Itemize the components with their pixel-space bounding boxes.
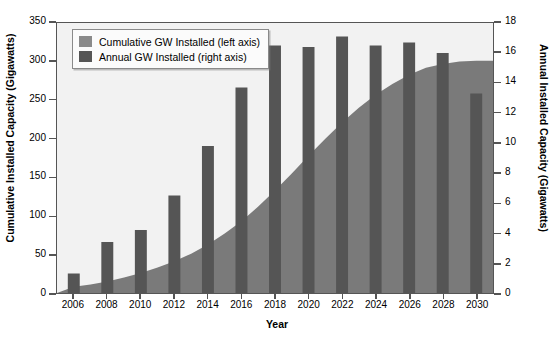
- x-axis-tick-mark: [443, 294, 445, 299]
- y-axis-left-tick-mark: [49, 138, 56, 140]
- legend-swatch-cumulative: [79, 36, 92, 47]
- y-axis-right-tick-label: 0: [505, 287, 535, 298]
- y-axis-left-tick-mark: [49, 60, 56, 62]
- y-axis-right-tick-label: 8: [505, 166, 535, 177]
- y-axis-right-tick-mark: [494, 263, 501, 265]
- y-axis-right-tick-mark: [494, 172, 501, 174]
- x-axis-tick-mark: [241, 294, 243, 299]
- bar: [135, 230, 147, 293]
- y-axis-right-tick-mark: [494, 112, 501, 114]
- y-axis-right-tick-mark: [494, 233, 501, 235]
- y-axis-left-tick-mark: [49, 99, 56, 101]
- legend-swatch-annual: [79, 51, 92, 62]
- y-axis-left-tick-label: 250: [12, 93, 46, 104]
- x-axis-tick-mark: [375, 294, 377, 299]
- x-axis-tick-mark: [342, 294, 344, 299]
- bar: [370, 46, 382, 293]
- x-axis-tick-mark: [274, 294, 276, 299]
- y-axis-left-tick-label: 350: [12, 15, 46, 26]
- bar: [336, 37, 348, 294]
- y-axis-right-tick-label: 16: [505, 45, 535, 56]
- y-axis-left-tick-mark: [49, 254, 56, 256]
- x-axis-tick-mark: [173, 294, 175, 299]
- y-axis-right-tick-label: 6: [505, 196, 535, 207]
- y-axis-right-tick-mark: [494, 142, 501, 144]
- x-axis-tick-mark: [106, 294, 108, 299]
- y-axis-left-tick-label: 100: [12, 209, 46, 220]
- bar: [68, 274, 80, 293]
- legend-label-cumulative: Cumulative GW Installed (left axis): [99, 36, 260, 48]
- bar: [269, 46, 281, 293]
- bar: [403, 42, 415, 293]
- y-axis-right-tick-mark: [494, 51, 501, 53]
- y-axis-left-tick-label: 50: [12, 248, 46, 259]
- x-axis-tick-mark: [72, 294, 74, 299]
- y-axis-left-tick-label: 300: [12, 54, 46, 65]
- y-axis-right-tick-label: 10: [505, 136, 535, 147]
- chart-container: Cumulative Installed Capacity (Gigawatts…: [0, 0, 554, 344]
- y-axis-right-tick-mark: [494, 203, 501, 205]
- x-axis-tick-mark: [139, 294, 141, 299]
- y-axis-right-tick-label: 4: [505, 227, 535, 238]
- y-axis-right-title: Annual Installed Capacity (Gigawatts): [538, 23, 550, 253]
- y-axis-left-tick-label: 150: [12, 170, 46, 181]
- chart-legend: Cumulative GW Installed (left axis) Annu…: [72, 29, 269, 69]
- y-axis-right-tick-label: 14: [505, 75, 535, 86]
- bar: [101, 242, 113, 293]
- legend-label-annual: Annual GW Installed (right axis): [99, 51, 247, 63]
- y-axis-left-tick-mark: [49, 21, 56, 23]
- y-axis-right-tick-mark: [494, 293, 501, 295]
- bar: [202, 146, 214, 293]
- bar: [235, 88, 247, 293]
- bar: [470, 93, 482, 293]
- x-axis-tick-mark: [207, 294, 209, 299]
- x-axis-title: Year: [0, 318, 554, 330]
- x-axis-tick-mark: [476, 294, 478, 299]
- y-axis-right-tick-label: 12: [505, 106, 535, 117]
- x-axis-tick-mark: [409, 294, 411, 299]
- y-axis-right-tick-mark: [494, 82, 501, 84]
- y-axis-right-tick-mark: [494, 21, 501, 23]
- x-axis-tick-label: 2030: [457, 299, 497, 310]
- y-axis-left-tick-mark: [49, 293, 56, 295]
- y-axis-right-tick-label: 18: [505, 15, 535, 26]
- y-axis-left-tick-label: 200: [12, 132, 46, 143]
- y-axis-left-tick-mark: [49, 216, 56, 218]
- x-axis-tick-mark: [308, 294, 310, 299]
- y-axis-right-tick-label: 2: [505, 257, 535, 268]
- legend-item-cumulative: Cumulative GW Installed (left axis): [79, 34, 260, 49]
- bar: [168, 196, 180, 293]
- legend-item-annual: Annual GW Installed (right axis): [79, 49, 260, 64]
- bar: [303, 47, 315, 293]
- bar: [437, 53, 449, 293]
- y-axis-left-tick-mark: [49, 177, 56, 179]
- y-axis-left-tick-label: 0: [12, 287, 46, 298]
